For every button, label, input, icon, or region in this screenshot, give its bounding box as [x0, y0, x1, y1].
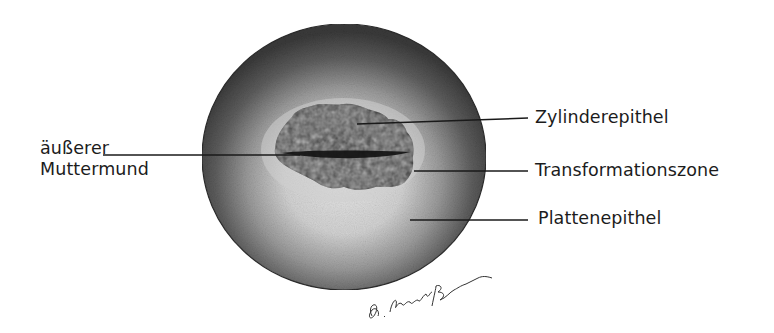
label-outer-os: äußerer Muttermund [40, 138, 149, 180]
cervix-diagram: äußerer Muttermund Zylinderepithel Trans… [0, 0, 774, 333]
label-outer-os-line2: Muttermund [40, 159, 149, 180]
label-squamous-epithelium: Plattenepithel [538, 208, 661, 229]
label-transformation-zone: Transformationszone [535, 160, 719, 181]
label-columnar-epithelium: Zylinderepithel [535, 107, 669, 128]
label-outer-os-line1: äußerer [40, 138, 149, 159]
